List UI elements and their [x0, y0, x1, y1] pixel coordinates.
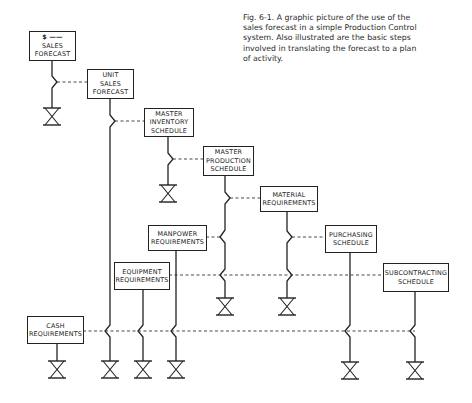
figure-caption: Fig. 6-1. A graphic picture of the use o… — [243, 13, 461, 64]
equipment-flow-line — [138, 289, 143, 361]
box-label: CASH — [46, 322, 65, 330]
manpower-flow-line — [171, 250, 176, 361]
box-label: REQUIREMENTS — [29, 330, 82, 338]
box-label: MASTER — [155, 110, 183, 118]
valve-icon-sales — [43, 108, 61, 125]
box-label: EQUIPMENT — [122, 268, 162, 276]
valve-icon-material — [278, 298, 296, 315]
valve-icon-purchasing — [341, 362, 359, 379]
box-label: PRODUCTION — [206, 157, 251, 165]
subcontracting-schedule-box: SUBCONTRACTING SCHEDULE — [383, 263, 449, 292]
caption-line: system. Also illustrated are the basic s… — [243, 33, 461, 43]
box-label: REQUIREMENTS — [115, 276, 168, 284]
box-label: FORECAST — [35, 50, 71, 58]
box-label: $ —— — [42, 33, 62, 41]
caption-line: sales forecast in a simple Production Co… — [243, 23, 461, 33]
box-label: SCHEDULE — [333, 239, 369, 247]
unit-sales-flow-line — [105, 98, 115, 361]
master-inventory-schedule-box: MASTER INVENTORY SCHEDULE — [144, 108, 194, 137]
valve-icon-unit-sales — [101, 361, 119, 378]
valve-icon-equipment — [134, 361, 152, 378]
box-label: UNIT — [102, 71, 118, 79]
purchasing-schedule-box: PURCHASING SCHEDULE — [325, 225, 377, 253]
sales-forecast-flow-line — [52, 60, 57, 108]
valve-icon-subcontracting — [406, 362, 424, 379]
material-requirements-box: MATERIAL REQUIREMENTS — [260, 186, 318, 212]
box-label: SCHEDULE — [398, 278, 434, 286]
valve-icon-cash — [48, 361, 66, 378]
box-label: SUBCONTRACTING — [385, 269, 447, 277]
master-inventory-flow-line — [168, 136, 173, 185]
material-flow-line — [287, 211, 292, 298]
subcontracting-flow-line — [410, 291, 415, 362]
box-label: REQUIREMENTS — [262, 199, 315, 207]
box-label: REQUIREMENTS — [151, 238, 204, 246]
box-label: SALES — [42, 42, 63, 50]
box-label: MATERIAL — [272, 191, 305, 199]
valve-icon-production — [216, 298, 234, 315]
master-production-flow-line — [220, 175, 230, 298]
valve-icon-manpower — [167, 361, 185, 378]
box-label: INVENTORY — [150, 118, 189, 126]
box-label: MASTER — [215, 148, 243, 156]
box-label: PURCHASING — [329, 231, 373, 239]
purchasing-flow-line — [345, 252, 350, 362]
sales-forecast-box: $ —— SALES FORECAST — [29, 31, 76, 61]
caption-line: of activity. — [243, 54, 461, 64]
box-label: MANPOWER — [158, 230, 198, 238]
box-label: SCHEDULE — [210, 165, 246, 173]
unit-sales-forecast-box: UNIT SALES FORECAST — [87, 69, 134, 99]
valve-icon-inventory — [159, 185, 177, 202]
caption-line: Fig. 6-1. A graphic picture of the use o… — [243, 13, 461, 23]
manpower-requirements-box: MANPOWER REQUIREMENTS — [148, 225, 207, 251]
box-label: FORECAST — [93, 88, 129, 96]
box-label: SALES — [100, 80, 121, 88]
caption-line: involved in translating the forecast to … — [243, 44, 461, 54]
box-label: SCHEDULE — [151, 127, 187, 135]
master-production-schedule-box: MASTER PRODUCTION SCHEDULE — [203, 146, 254, 176]
cash-requirements-box: CASH REQUIREMENTS — [27, 316, 84, 344]
equipment-requirements-box: EQUIPMENT REQUIREMENTS — [114, 262, 170, 290]
